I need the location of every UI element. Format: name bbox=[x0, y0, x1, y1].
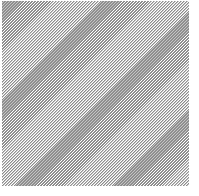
image-canvas: A square region filled with a fine gray … bbox=[0, 0, 199, 196]
image-alt-text: A square region filled with a fine gray … bbox=[0, 0, 1, 1]
hatched-rectangle bbox=[2, 1, 189, 186]
